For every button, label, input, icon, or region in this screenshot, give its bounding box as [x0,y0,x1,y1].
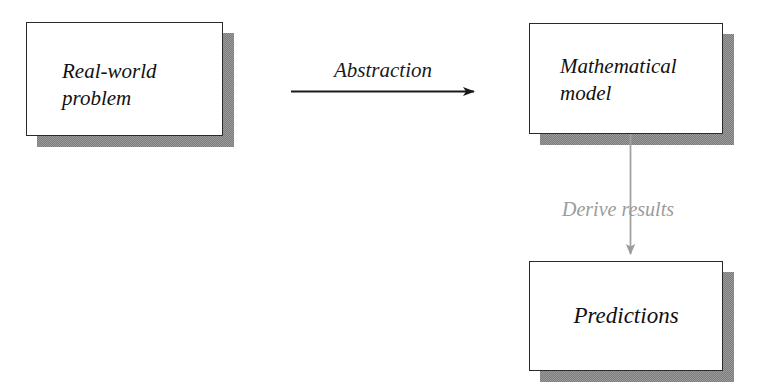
edge-label-abstraction: Abstraction [334,58,432,83]
node-label-predictions: Predictions [529,261,723,371]
node-label-real-world-problem: Real-world problem [62,58,157,112]
node-real-world-problem[interactable]: Real-world problem [26,22,223,136]
node-label-mathematical-model: Mathematical model [560,53,677,107]
diagram-canvas: Real-world problem Mathematical model Pr… [0,0,768,391]
node-mathematical-model[interactable]: Mathematical model [529,23,723,134]
edge-label-derive-results: Derive results [562,198,674,221]
node-predictions[interactable]: Predictions [529,261,723,371]
